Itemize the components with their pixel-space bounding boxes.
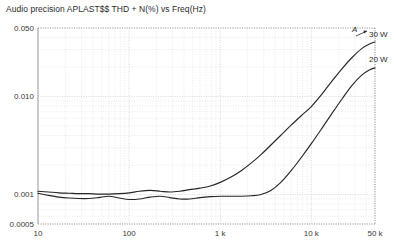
series-label-30w: 30 W xyxy=(369,30,388,39)
axis-frame xyxy=(38,28,375,224)
x-tick-label: 10 k xyxy=(304,229,319,238)
plot-canvas xyxy=(0,0,395,251)
minor-gridlines xyxy=(38,28,375,224)
x-tick-label: 100 xyxy=(122,229,135,238)
thd-chart: Audio precision APLAST$$ THD + N(%) vs F… xyxy=(0,0,395,251)
annotation-arrow xyxy=(356,31,367,36)
x-tick-label: 1 k xyxy=(215,229,226,238)
y-tick-label: 0.001 xyxy=(0,190,34,199)
y-tick-label: 0.0005 xyxy=(0,220,34,229)
x-tick-label: 50 k xyxy=(367,229,382,238)
x-tick-label: 10 xyxy=(34,229,43,238)
chart-title: Audio precision APLAST$$ THD + N(%) vs F… xyxy=(6,4,206,15)
y-tick-label: 0.050 xyxy=(0,24,34,33)
data-series xyxy=(38,42,375,200)
series-label-20w: 20 W xyxy=(369,55,388,64)
major-gridlines xyxy=(38,28,375,224)
annotation-a-label: A xyxy=(352,25,357,34)
y-tick-label: 0.010 xyxy=(0,92,34,101)
